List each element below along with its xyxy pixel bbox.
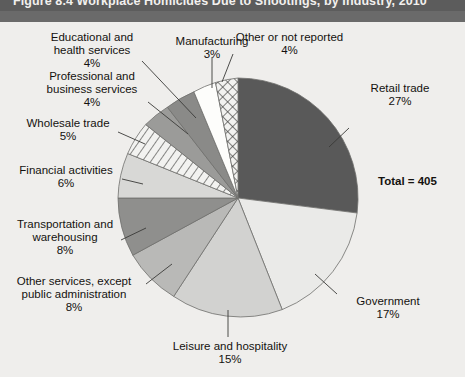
title-divider [0, 11, 465, 22]
label-financial-line1: Financial activities [19, 164, 112, 176]
label-other-not-reported-line1: Other or not reported [236, 31, 343, 43]
label-professional-and-business-services: Professional and business services 4% [32, 70, 152, 109]
total-label: Total = 405 [378, 175, 437, 187]
label-leisure-pct: 15% [155, 353, 305, 366]
label-other-services-line1: Other services, except [17, 275, 131, 287]
label-wholesale-line1: Wholesale trade [26, 117, 109, 129]
label-other-or-not-reported: Other or not reported 4% [222, 31, 357, 57]
label-other-services-except-public-administration: Other services, except public administra… [4, 275, 144, 314]
label-other-not-reported-pct: 4% [222, 44, 357, 57]
label-retail-line1: Retail trade [371, 82, 430, 94]
label-professional-line2: business services [47, 83, 138, 95]
label-wholesale-pct: 5% [18, 130, 118, 143]
label-government-line1: Government [356, 295, 419, 307]
label-educational-line2: health services [54, 44, 131, 56]
label-educational-line1: Educational and [51, 31, 133, 43]
label-retail-trade: Retail trade 27% [350, 82, 450, 108]
label-leisure-and-hospitality: Leisure and hospitality 15% [155, 340, 305, 366]
label-professional-line1: Professional and [49, 70, 135, 82]
label-other-services-line2: public administration [22, 288, 127, 300]
label-government: Government 17% [338, 295, 438, 321]
label-financial-activities: Financial activities 6% [10, 164, 122, 190]
label-transportation-and-warehousing: Transportation and warehousing 8% [6, 218, 124, 257]
label-transportation-pct: 8% [6, 244, 124, 257]
pie-slices [118, 78, 358, 317]
label-leisure-line1: Leisure and hospitality [173, 340, 287, 352]
label-government-pct: 17% [338, 308, 438, 321]
label-educational-pct: 4% [32, 57, 152, 70]
label-transportation-line1: Transportation and [17, 218, 113, 230]
figure-title: Figure 8.4 Workplace Homicides Due to Sh… [13, 0, 427, 8]
label-financial-pct: 6% [10, 177, 122, 190]
label-educational-and-health-services: Educational and health services 4% [32, 31, 152, 70]
figure-title-bar: Figure 8.4 Workplace Homicides Due to Sh… [0, 0, 465, 11]
label-retail-pct: 27% [350, 95, 450, 108]
label-transportation-line2: warehousing [32, 231, 97, 243]
label-professional-pct: 4% [32, 96, 152, 109]
chart-canvas: Educational and health services 4% Profe… [0, 22, 465, 377]
label-other-services-pct: 8% [4, 301, 144, 314]
figure-pie-chart: Figure 8.4 Workplace Homicides Due to Sh… [0, 0, 465, 377]
label-wholesale-trade: Wholesale trade 5% [18, 117, 118, 143]
pie-slice-retail-trade[interactable] [238, 78, 358, 213]
